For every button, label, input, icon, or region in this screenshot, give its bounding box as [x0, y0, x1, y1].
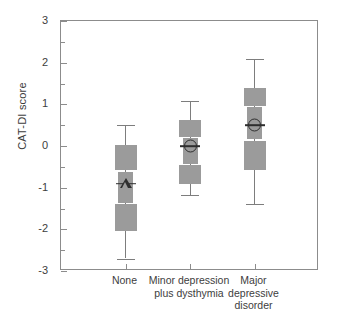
y-tick-major — [61, 188, 67, 189]
y-tick-label: 1 — [42, 97, 48, 109]
box-segment-lower — [179, 165, 201, 184]
y-tick-minor — [61, 209, 65, 210]
y-tick-label: -2 — [38, 222, 48, 234]
y-tick-major — [61, 21, 67, 22]
y-tick-major — [61, 146, 67, 147]
x-axis-tick-labels: NoneMinor depression plus dysthymiaMajor… — [60, 274, 318, 322]
box-segment-upper — [115, 145, 137, 170]
box-segment-upper — [244, 88, 266, 106]
x-tick — [190, 264, 191, 269]
y-tick-label: -1 — [38, 181, 48, 193]
y-tick-minor — [61, 42, 65, 43]
x-tick — [126, 264, 127, 269]
y-tick-minor — [61, 84, 65, 85]
whisker-cap-lower — [246, 204, 264, 205]
median-marker-circle — [248, 119, 261, 132]
whisker-cap-upper — [181, 101, 199, 102]
whisker-cap-lower — [117, 259, 135, 260]
box-segment-lower — [244, 141, 266, 170]
y-tick-minor — [61, 125, 65, 126]
y-tick-major — [61, 271, 67, 272]
x-category-label: Major depressive disorder — [208, 274, 300, 312]
median-marker-circle — [184, 140, 197, 153]
y-tick-major — [61, 229, 67, 230]
box-segment-upper — [179, 120, 201, 136]
chart-figure: CAT-DI score -3-2-10123 NoneMinor depres… — [0, 0, 347, 323]
whisker-cap-upper — [117, 125, 135, 126]
y-tick-label: 3 — [42, 14, 48, 26]
y-tick-label: 2 — [42, 56, 48, 68]
y-tick-label: 0 — [42, 139, 48, 151]
y-tick-major — [61, 104, 67, 105]
whisker-cap-lower — [181, 195, 199, 196]
x-tick — [255, 264, 256, 269]
y-tick-label: -3 — [38, 264, 48, 276]
y-tick-minor — [61, 167, 65, 168]
median-marker-triangle-inner — [122, 182, 128, 188]
plot-area — [60, 20, 318, 270]
box-segment-lower — [115, 204, 137, 231]
y-tick-major — [61, 63, 67, 64]
y-tick-minor — [61, 250, 65, 251]
whisker-cap-upper — [246, 59, 264, 60]
y-axis-tick-labels: -3-2-10123 — [0, 20, 55, 270]
